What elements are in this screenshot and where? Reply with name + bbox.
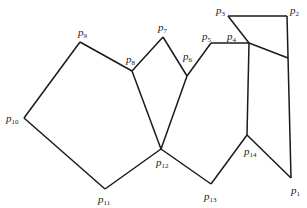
vertex-label-p1: p1 <box>290 184 301 198</box>
edge-p8-p12 <box>132 71 161 149</box>
edge-p11-p12 <box>105 149 161 189</box>
vertex-label-p8: p8 <box>125 53 136 67</box>
edge-p12-p13 <box>161 149 211 184</box>
vertex-label-p2: p2 <box>289 4 300 18</box>
edge-p9-p10 <box>24 42 80 118</box>
vertex-label-p7: p7 <box>157 21 168 35</box>
edge-p4-p14 <box>247 43 249 135</box>
edge-p13-p14 <box>211 135 247 184</box>
vertex-label-p11: p11 <box>97 193 111 207</box>
vertex-label-p9: p9 <box>77 26 88 40</box>
vertex-label-p3: p3 <box>215 4 226 18</box>
vertex-label-p13: p13 <box>203 190 217 204</box>
vertex-label-p6: p6 <box>182 50 193 64</box>
edge-p8-p9 <box>80 42 132 71</box>
edge-p1-p2 <box>287 16 291 178</box>
vertex-labels: p1p2p3p4p5p6p7p8p9p10p11p12p13p14 <box>5 4 301 207</box>
edge-p10-p11 <box>24 118 105 189</box>
edge-p4-q <box>249 43 288 58</box>
edge-p7-p8 <box>132 37 163 71</box>
vertex-label-p12: p12 <box>155 156 169 170</box>
vertex-label-p14: p14 <box>243 145 257 159</box>
vertex-label-p10: p10 <box>5 112 19 126</box>
polygon-diagram: p1p2p3p4p5p6p7p8p9p10p11p12p13p14 <box>0 0 307 208</box>
vertex-label-p4: p4 <box>226 30 237 44</box>
edge-p6-p12 <box>161 76 187 149</box>
vertex-label-p5: p5 <box>201 30 212 44</box>
